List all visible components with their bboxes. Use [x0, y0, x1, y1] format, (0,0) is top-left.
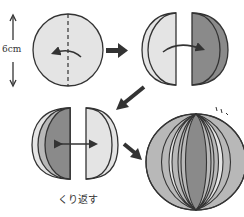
- arrow-down-left-icon: [116, 87, 144, 110]
- arrow-right-icon: [106, 43, 128, 58]
- dimension-label: 6cm: [2, 44, 21, 54]
- step4-sphere: [146, 114, 244, 210]
- step1-circle: [33, 14, 103, 86]
- caption-repeat: くり返す: [58, 191, 98, 206]
- step2-halves: [142, 13, 228, 85]
- arrow-down-right-icon: [124, 144, 142, 160]
- diagram-canvas: [0, 0, 244, 217]
- sparkle-icon: [216, 107, 228, 115]
- step3-halves: [32, 108, 118, 179]
